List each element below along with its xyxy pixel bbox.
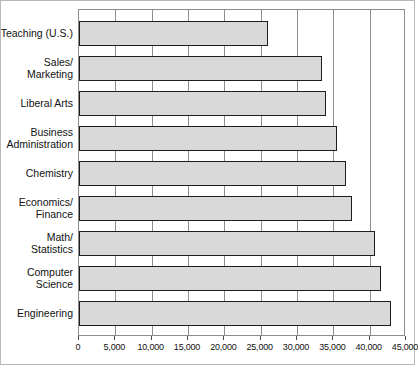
category-label: Math/ Statistics bbox=[0, 231, 73, 255]
axis-tick bbox=[78, 336, 79, 340]
bar-row bbox=[79, 231, 406, 256]
bar-row bbox=[79, 91, 406, 116]
category-label: Computer Science bbox=[0, 266, 73, 290]
bar[interactable] bbox=[79, 301, 391, 326]
x-tick-label: 5,000 bbox=[104, 342, 126, 352]
x-tick-label: 40,000 bbox=[355, 342, 381, 352]
bar[interactable] bbox=[79, 56, 322, 81]
x-tick-label: 20,000 bbox=[210, 342, 236, 352]
category-label: Engineering bbox=[0, 307, 73, 319]
x-tick-label: 15,000 bbox=[174, 342, 200, 352]
bar[interactable] bbox=[79, 91, 326, 116]
x-tick-label: 35,000 bbox=[319, 342, 345, 352]
axis-tick bbox=[296, 336, 297, 340]
category-label: Chemistry bbox=[0, 167, 73, 179]
bar[interactable] bbox=[79, 231, 375, 256]
axis-tick bbox=[260, 336, 261, 340]
bar[interactable] bbox=[79, 21, 268, 46]
bar[interactable] bbox=[79, 196, 352, 221]
x-tick-label: 0 bbox=[76, 342, 81, 352]
bar-row bbox=[79, 266, 406, 291]
bar-row bbox=[79, 56, 406, 81]
bar-row bbox=[79, 21, 406, 46]
axis-tick bbox=[187, 336, 188, 340]
axis-tick bbox=[332, 336, 333, 340]
bar[interactable] bbox=[79, 266, 381, 291]
x-tick-label: 45,000 bbox=[392, 342, 418, 352]
category-label: Liberal Arts bbox=[0, 97, 73, 109]
bar[interactable] bbox=[79, 126, 337, 151]
bar-row bbox=[79, 301, 406, 326]
x-tick-label: 10,000 bbox=[137, 342, 163, 352]
plot-area bbox=[78, 9, 405, 336]
x-tick-label: 25,000 bbox=[246, 342, 272, 352]
category-label: Teaching (U.S.) bbox=[0, 27, 73, 39]
bar[interactable] bbox=[79, 161, 346, 186]
axis-tick bbox=[151, 336, 152, 340]
category-label: Business Administration bbox=[0, 126, 73, 150]
bar-row bbox=[79, 126, 406, 151]
x-tick-label: 30,000 bbox=[283, 342, 309, 352]
axis-tick bbox=[405, 336, 406, 340]
bar-row bbox=[79, 161, 406, 186]
category-label: Sales/ Marketing bbox=[0, 56, 73, 80]
category-label: Economics/ Finance bbox=[0, 196, 73, 220]
axis-tick bbox=[223, 336, 224, 340]
axis-tick bbox=[369, 336, 370, 340]
axis-tick bbox=[114, 336, 115, 340]
bar-row bbox=[79, 196, 406, 221]
